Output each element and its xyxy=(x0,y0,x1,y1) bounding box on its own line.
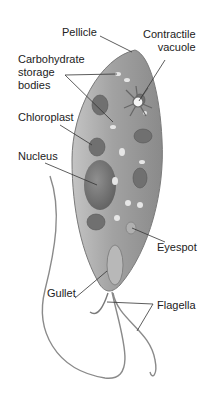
label-gullet: Gullet xyxy=(47,287,76,300)
label-eyespot: Eyespot xyxy=(157,241,197,254)
label-chloroplast: Chloroplast xyxy=(18,111,74,124)
label-flagella: Flagella xyxy=(157,299,196,312)
label-nucleus: Nucleus xyxy=(18,150,58,163)
short-flagellum xyxy=(90,293,108,314)
label-carbohydrate-storage-bodies: Carbohydrate storage bodies xyxy=(18,53,85,92)
euglena-diagram: Pellicle Contractile vacuole Carbohydrat… xyxy=(0,0,211,396)
label-pellicle: Pellicle xyxy=(62,26,97,39)
short-flagellum-2 xyxy=(113,293,156,376)
nucleus-shape xyxy=(84,160,116,210)
label-contractile-vacuole: Contractile vacuole xyxy=(143,28,196,54)
